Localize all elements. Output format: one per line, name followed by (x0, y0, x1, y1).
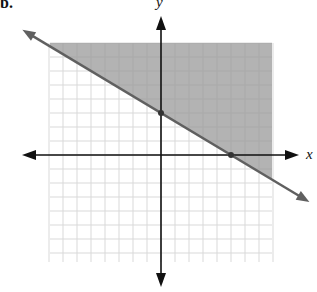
x-axis-right-arrow-icon (285, 150, 299, 160)
y-intercept-point (158, 110, 164, 116)
boundary-arrow-lower-right-icon (296, 191, 310, 202)
x-intercept-point (228, 152, 234, 158)
inequality-graph (0, 0, 317, 292)
x-axis-left-arrow-icon (22, 150, 36, 160)
y-axis-down-arrow-icon (156, 273, 166, 287)
y-axis-up-arrow-icon (156, 16, 166, 30)
boundary-arrow-upper-left-icon (22, 30, 36, 41)
